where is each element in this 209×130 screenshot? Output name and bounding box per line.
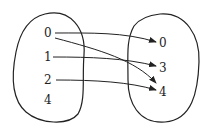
domain-element-4: 4 [44,93,52,107]
mapping-diagram: 0 1 2 4 0 3 4 [0,0,209,130]
domain-element-2: 2 [44,73,52,87]
codomain-element-0: 0 [159,36,167,50]
domain-element-0: 0 [44,26,52,40]
arrow-1-to-3 [53,57,156,66]
domain-element-1: 1 [44,50,52,64]
codomain-element-4: 4 [159,85,167,99]
arrow-0-to-4 [55,38,156,83]
codomain-element-3: 3 [159,61,167,75]
arrow-2-to-4 [56,80,156,90]
arrow-0-to-0 [55,33,156,42]
